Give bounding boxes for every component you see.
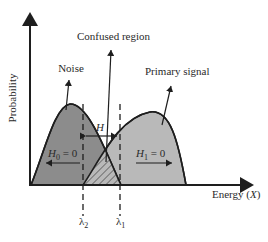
x-axis-label: Energy (X): [212, 188, 261, 201]
y-axis-label: Probability: [6, 73, 18, 122]
diagram-figure: Probability Energy (X) Noise Confused re…: [0, 0, 268, 242]
lambda1-label: λ1: [116, 215, 125, 230]
noise-label: Noise: [58, 62, 84, 74]
lambda2-label: λ2: [79, 215, 88, 230]
diagram-canvas: Probability Energy (X) Noise Confused re…: [0, 0, 268, 242]
confused-region-label: Confused region: [77, 30, 151, 42]
primary-signal-label: Primary signal: [145, 65, 209, 77]
h-gap-label: H: [95, 121, 105, 133]
